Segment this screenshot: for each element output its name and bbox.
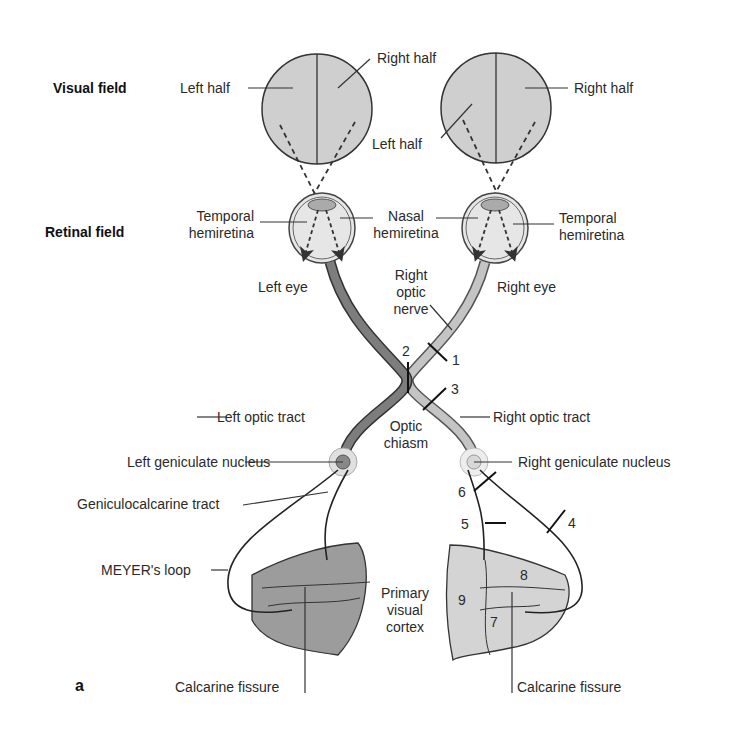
label-right-half: Right half — [377, 50, 436, 67]
label-left-geniculate-nucleus: Left geniculate nucleus — [127, 454, 270, 471]
left-eye — [289, 193, 355, 263]
label-nasal-hemiretina: Nasalhemiretina — [370, 208, 442, 242]
lesion-number-8: 8 — [520, 567, 528, 583]
label-right-eye: Right eye — [497, 279, 556, 296]
label-right-optic-nerve: Rightopticnerve — [386, 267, 436, 318]
lesion-number-1: 1 — [452, 352, 460, 368]
visual-pathway-diagram — [0, 0, 735, 745]
label-right-half-right-eye: Right half — [574, 80, 633, 97]
right-eye — [462, 193, 528, 263]
label-left-half: Left half — [180, 80, 230, 97]
lesion-number-3: 3 — [451, 381, 459, 397]
label-right-calcarine-fissure: Calcarine fissure — [517, 679, 621, 696]
label-left-eye: Left eye — [258, 279, 308, 296]
lesion-number-2: 2 — [402, 343, 410, 359]
lesion-number-7: 7 — [490, 614, 498, 630]
label-meyers-loop: MEYER's loop — [101, 562, 191, 579]
row-label-retinal-field: Retinal field — [45, 224, 124, 241]
label-left-calcarine-fissure: Calcarine fissure — [175, 679, 279, 696]
lesion-number-5: 5 — [461, 516, 469, 532]
panel-letter: a — [75, 677, 84, 694]
label-right-optic-tract: Right optic tract — [493, 409, 590, 426]
label-left-temporal-hemiretina: Temporalhemiretina — [176, 208, 254, 242]
left-visual-cortex — [252, 543, 366, 655]
lesion-number-6: 6 — [458, 484, 466, 500]
label-right-temporal-hemiretina: Temporalhemiretina — [559, 210, 624, 244]
label-primary-visual-cortex: Primaryvisualcortex — [375, 585, 435, 636]
lesion-number-9: 9 — [458, 592, 466, 608]
label-geniculocalcarine-tract: Geniculocalcarine tract — [77, 496, 219, 513]
lesion-number-4: 4 — [568, 515, 576, 531]
label-left-half-right-eye: Left half — [372, 136, 422, 153]
label-optic-chiasm: Opticchiasm — [378, 418, 434, 452]
right-visual-field-circle — [441, 53, 551, 163]
label-left-optic-tract: Left optic tract — [217, 409, 305, 426]
left-visual-field-circle — [262, 54, 372, 164]
label-right-geniculate-nucleus: Right geniculate nucleus — [518, 454, 671, 471]
row-label-visual-field: Visual field — [53, 80, 127, 97]
